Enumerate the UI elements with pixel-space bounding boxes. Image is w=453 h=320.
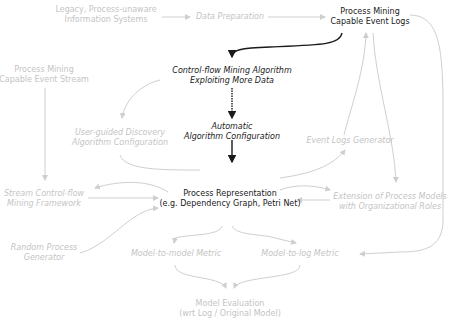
node-label: Information Systems (55, 15, 156, 25)
node-label: Algorithm Configuration (184, 132, 280, 142)
node-label: Event Logs Generator (306, 136, 393, 146)
node-stream-cf-framework: Stream Control-flow Mining Framework (4, 189, 84, 209)
edge-repr-to-m2m (174, 226, 222, 243)
node-cf-mining-algorithm: Control-flow Mining Algorithm Exploiting… (172, 66, 291, 86)
edge-logs-to-extension (373, 33, 396, 182)
edge-repr-to-m2l (232, 226, 296, 243)
edge-m2l-to-eval (234, 265, 300, 288)
edge-logs-to-cf (232, 33, 342, 57)
node-event-logs: Process Mining Capable Event Logs (330, 7, 409, 27)
node-label: (wrt Log / Original Model) (179, 309, 281, 319)
node-label: Legacy, Process-unaware (55, 5, 156, 15)
node-model-to-model-metric: Model-to-model Metric (131, 249, 221, 259)
node-model-evaluation: Model Evaluation (wrt Log / Original Mod… (179, 299, 281, 319)
node-event-logs-generator: Event Logs Generator (306, 136, 393, 146)
node-label: Random Process (11, 243, 78, 253)
node-user-guided-config: User-guided Discovery Algorithm Configur… (72, 128, 168, 148)
edge-random-to-repr (80, 208, 158, 253)
node-label: Model-to-model Metric (131, 249, 221, 259)
node-label: Algorithm Configuration (72, 138, 168, 148)
edge-logs-to-m2l (360, 15, 443, 254)
node-label: with Organizational Roles (333, 202, 446, 212)
node-label: Exploiting More Data (172, 76, 291, 86)
node-label: Data Preparation (196, 12, 264, 22)
node-data-preparation: Data Preparation (196, 12, 264, 22)
edge-eventlogsgen-to-logs (344, 33, 366, 135)
edge-repr-to-eventlogsgen (280, 150, 345, 178)
node-label: (e.g. Dependency Graph, Petri Net) (159, 199, 300, 209)
node-label: Automatic (184, 122, 280, 132)
node-label: Process Mining (330, 7, 409, 17)
node-label: Process Mining (0, 65, 89, 75)
node-model-to-log-metric: Model-to-log Metric (261, 249, 338, 259)
node-label: Model-to-log Metric (261, 249, 338, 259)
node-label: Control-flow Mining Algorithm (172, 66, 291, 76)
edges-layer (0, 0, 453, 320)
node-label: Capable Event Stream (0, 75, 89, 85)
edge-m2m-to-eval (175, 265, 226, 288)
node-event-stream: Process Mining Capable Event Stream (0, 65, 89, 85)
edge-userguided-to-repr (120, 155, 200, 170)
node-label: Generator (11, 253, 78, 263)
edge-repr-to-streamcf (95, 182, 168, 192)
node-label: Mining Framework (4, 199, 84, 209)
node-process-representation: Process Representation (e.g. Dependency … (159, 189, 300, 209)
node-automatic-config: Automatic Algorithm Configuration (184, 122, 280, 142)
node-legacy-systems: Legacy, Process-unaware Information Syst… (55, 5, 156, 25)
node-label: Model Evaluation (179, 299, 281, 309)
node-label: Stream Control-flow (4, 189, 84, 199)
node-label: User-guided Discovery (72, 128, 168, 138)
node-label: Process Representation (159, 189, 300, 199)
node-random-process-generator: Random Process Generator (11, 243, 78, 263)
edge-cf-to-userguided (122, 80, 160, 118)
node-extension-org-roles: Extension of Process Models with Organiz… (333, 192, 446, 212)
node-label: Extension of Process Models (333, 192, 446, 202)
node-label: Capable Event Logs (330, 17, 409, 27)
